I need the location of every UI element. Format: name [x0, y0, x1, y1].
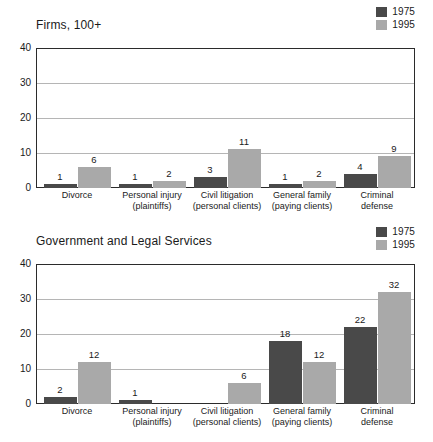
legend-chart-1: 1975 1995: [376, 6, 415, 30]
chart-2-category-labels: Divorce Personal injury (plaintiffs) Civ…: [36, 406, 415, 432]
y-tick-10: 10: [20, 148, 31, 158]
category-line-2: defense: [338, 417, 416, 428]
legend-item-1975: 1975: [376, 226, 415, 237]
chart-government-and-legal-services: 1975 1995 Government and Legal Services …: [0, 220, 433, 442]
category-line-1: Civil litigation: [201, 190, 254, 200]
category-label-general-family: General family (paying clients): [263, 406, 341, 427]
y-tick-40: 40: [20, 259, 31, 269]
legend-label-1995: 1995: [392, 240, 415, 250]
gridline-10: [37, 153, 414, 154]
chart-1-category-labels: Divorce Personal injury (plaintiffs) Civ…: [36, 190, 415, 216]
chart-1-title: Firms, 100+: [36, 18, 101, 32]
gridline-30: [37, 299, 414, 300]
category-label-general-family: General family (paying clients): [263, 190, 341, 211]
category-line-1: Personal injury: [122, 190, 182, 200]
category-label-divorce: Divorce: [38, 190, 116, 201]
category-line-2: (paying clients): [263, 417, 341, 428]
gridline-20: [37, 118, 414, 119]
chart-2-y-axis: 40 30 20 10 0: [0, 264, 36, 404]
legend-chart-2: 1975 1995: [376, 226, 415, 250]
category-label-criminal-defense: Criminal defense: [338, 190, 416, 211]
y-tick-30: 30: [20, 78, 31, 88]
category-label-civil-litigation: Civil litigation (personal clients): [186, 406, 268, 427]
category-line-1: General family: [273, 190, 331, 200]
category-line-2: (personal clients): [186, 201, 268, 212]
legend-item-1995: 1995: [376, 19, 415, 30]
chart-1-y-axis: 40 30 20 10 0: [0, 48, 36, 188]
y-tick-20: 20: [20, 329, 31, 339]
legend-label-1975: 1975: [392, 7, 415, 17]
y-tick-10: 10: [20, 364, 31, 374]
category-label-personal-injury: Personal injury (plaintiffs): [113, 406, 191, 427]
category-line-1: Divorce: [62, 406, 93, 416]
legend-item-1995: 1995: [376, 239, 415, 250]
legend-item-1975: 1975: [376, 6, 415, 17]
category-line-2: (plaintiffs): [113, 201, 191, 212]
chart-2-title: Government and Legal Services: [36, 234, 212, 248]
category-line-2: (personal clients): [186, 417, 268, 428]
category-line-2: (plaintiffs): [113, 417, 191, 428]
category-line-2: defense: [338, 201, 416, 212]
y-tick-0: 0: [25, 183, 31, 193]
category-line-1: Civil litigation: [201, 406, 254, 416]
legend-swatch-1975: [376, 227, 387, 237]
gridline-20: [37, 334, 414, 335]
category-line-1: Criminal: [360, 406, 393, 416]
bar-chart-page: { "legend": { "series": [ { "label": "19…: [0, 0, 433, 442]
y-tick-0: 0: [25, 399, 31, 409]
category-label-civil-litigation: Civil litigation (personal clients): [186, 190, 268, 211]
category-line-1: Divorce: [62, 190, 93, 200]
category-line-2: (paying clients): [263, 201, 341, 212]
category-label-divorce: Divorce: [38, 406, 116, 417]
y-tick-20: 20: [20, 113, 31, 123]
legend-label-1995: 1995: [392, 20, 415, 30]
chart-2-plot-area: [36, 264, 415, 404]
legend-label-1975: 1975: [392, 227, 415, 237]
chart-1-plot-area: [36, 48, 415, 188]
legend-swatch-1995: [376, 240, 387, 250]
category-line-1: Criminal: [360, 190, 393, 200]
gridline-30: [37, 83, 414, 84]
category-line-1: General family: [273, 406, 331, 416]
category-label-personal-injury: Personal injury (plaintiffs): [113, 190, 191, 211]
category-line-1: Personal injury: [122, 406, 182, 416]
legend-swatch-1975: [376, 7, 387, 17]
chart-firms-100plus: 1975 1995 Firms, 100+ 40 30 20 10 0 1: [0, 0, 433, 220]
y-tick-40: 40: [20, 43, 31, 53]
legend-swatch-1995: [376, 20, 387, 30]
category-label-criminal-defense: Criminal defense: [338, 406, 416, 427]
gridline-10: [37, 369, 414, 370]
y-tick-30: 30: [20, 294, 31, 304]
